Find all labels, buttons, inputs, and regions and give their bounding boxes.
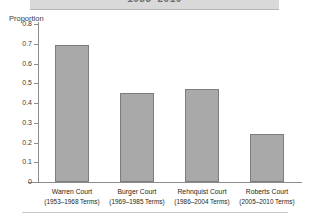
y-tick-mark <box>34 24 39 25</box>
bar <box>185 89 219 182</box>
y-tick-label: 0.4 <box>2 99 32 106</box>
y-tick-label: 0.1 <box>2 158 32 165</box>
y-tick-label: 0.2 <box>2 139 32 146</box>
y-tick-mark <box>34 143 39 144</box>
chart-title: 1953–2010 <box>30 0 279 4</box>
y-tick-mark <box>34 64 39 65</box>
y-tick-label: 0 <box>2 178 32 185</box>
x-category-label: Rehnquist Court(1986–2004 Terms) <box>169 187 235 207</box>
y-tick-mark <box>34 123 39 124</box>
y-tick-mark <box>34 83 39 84</box>
y-tick-mark <box>34 44 39 45</box>
y-tick-mark <box>34 162 39 163</box>
y-tick-label: 0.7 <box>2 40 32 47</box>
x-category-name: Warren Court <box>52 188 93 195</box>
x-category-name: Rehnquist Court <box>177 188 226 195</box>
bar <box>55 45 89 182</box>
x-category-label: Burger Court(1969–1985 Terms) <box>104 187 170 207</box>
y-tick-label: 0.6 <box>2 60 32 67</box>
bar-chart: 1953–2010 Proportion 0.80.70.60.50.40.30… <box>0 0 309 219</box>
bottom-divider <box>22 212 288 213</box>
y-tick-label: 0.5 <box>2 79 32 86</box>
x-category-name: Burger Court <box>118 188 157 195</box>
y-tick-label: 0.3 <box>2 119 32 126</box>
x-category-terms: (2005–2010 Terms) <box>234 197 300 207</box>
x-category-terms: (1986–2004 Terms) <box>169 197 235 207</box>
x-category-terms: (1953–1968 Terms) <box>39 197 105 207</box>
x-category-label: Warren Court(1953–1968 Terms) <box>39 187 105 207</box>
bar <box>120 93 154 182</box>
bar <box>250 134 284 182</box>
x-category-terms: (1969–1985 Terms) <box>104 197 170 207</box>
y-tick-mark <box>34 182 39 183</box>
y-tick-label: 0.8 <box>2 20 32 27</box>
chart-header-band: 1953–2010 <box>30 0 279 10</box>
x-category-name: Roberts Court <box>246 188 288 195</box>
x-category-label: Roberts Court(2005–2010 Terms) <box>234 187 300 207</box>
y-tick-mark <box>34 103 39 104</box>
x-axis-line <box>28 182 302 183</box>
